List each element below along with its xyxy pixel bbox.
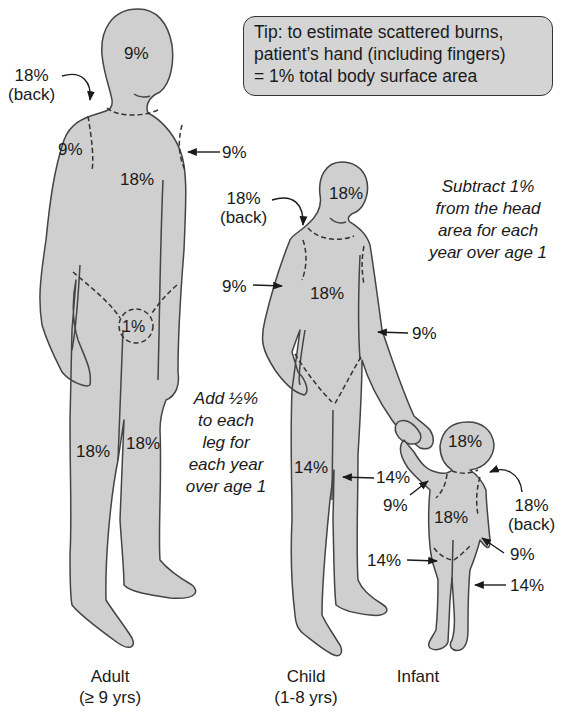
infant-caption: Infant <box>378 666 458 687</box>
adult-left-arm-label: 9% <box>58 140 83 159</box>
adult-trunk-label: 18% <box>120 170 154 189</box>
tip-box: Tip: to estimate scattered burns, patien… <box>243 16 553 96</box>
tip-line-1: Tip: to estimate scattered burns, <box>254 21 542 43</box>
child-caption: Child (1-8 yrs) <box>266 666 346 708</box>
child-head-label: 18% <box>329 184 363 203</box>
infant-body-silhouette <box>401 422 494 650</box>
head-rule-note: Subtract 1% from the head area for each … <box>418 176 558 264</box>
adult-right-leg-label: 18% <box>126 434 160 453</box>
rule-of-nines-figures <box>0 0 564 715</box>
adult-right-arm-label: 9% <box>222 143 247 162</box>
tip-line-3: = 1% total body surface area <box>254 65 542 87</box>
child-body-silhouette <box>262 162 433 656</box>
child-left-arm-label: 9% <box>222 277 247 296</box>
child-left-leg-label: 14% <box>294 458 328 477</box>
infant-right-arm-label: 9% <box>510 545 535 564</box>
child-right-leg-label: 14% <box>376 468 410 487</box>
child-back-label: 18% (back) <box>220 189 267 227</box>
child-right-arm-label: 9% <box>412 324 437 343</box>
infant-left-leg-label: 14% <box>367 551 401 570</box>
adult-head-label: 9% <box>124 44 149 63</box>
infant-figure <box>401 422 494 650</box>
adult-genitals-label: 1% <box>122 317 145 336</box>
leg-rule-note: Add ½% to each leg for each year over ag… <box>176 388 276 498</box>
infant-right-leg-label: 14% <box>510 576 544 595</box>
adult-caption: Adult (≥ 9 yrs) <box>70 666 150 708</box>
infant-head-label: 18% <box>448 432 482 451</box>
adult-left-leg-label: 18% <box>76 442 110 461</box>
infant-left-arm-label: 9% <box>383 496 408 515</box>
adult-body-silhouette <box>40 9 196 647</box>
adult-figure <box>40 9 196 647</box>
adult-back-label: 18% (back) <box>8 66 55 104</box>
infant-back-label: 18% (back) <box>508 496 555 534</box>
child-trunk-label: 18% <box>310 284 344 303</box>
infant-trunk-label: 18% <box>434 508 468 527</box>
child-figure <box>262 162 433 656</box>
tip-line-2: patient’s hand (including fingers) <box>254 43 542 65</box>
